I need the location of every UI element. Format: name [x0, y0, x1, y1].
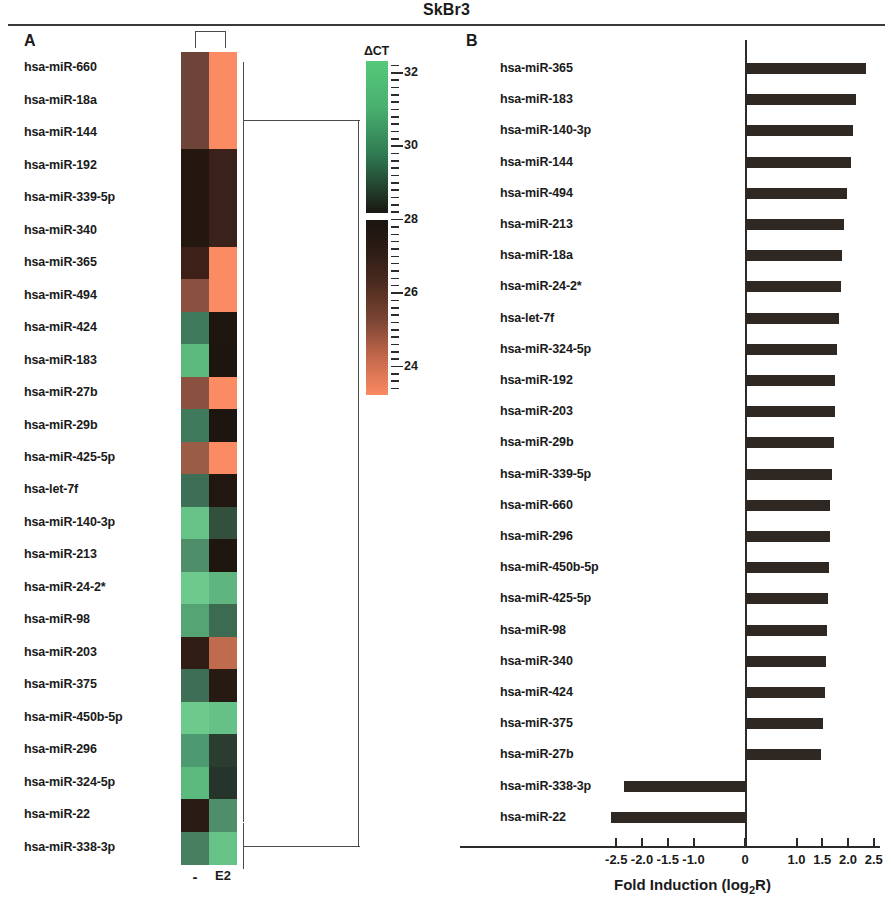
heatmap-row-label: hsa-miR-203: [24, 646, 174, 659]
heatmap-row-label: hsa-miR-98: [24, 613, 174, 626]
bar: [745, 63, 866, 74]
colorbar-tick: [391, 344, 399, 346]
colorbar-tick: [391, 241, 399, 243]
x-axis-tick: [693, 838, 695, 846]
colorbar-tick: [391, 292, 403, 294]
heatmap-cell: [209, 539, 237, 572]
x-axis-line: [460, 846, 880, 848]
colorbar-tick: [391, 270, 399, 272]
colorbar-tick: [391, 123, 399, 125]
colorbar-tick: [391, 204, 399, 206]
panel-a-row-labels: hsa-miR-660hsa-miR-18ahsa-miR-144hsa-miR…: [24, 52, 174, 864]
x-axis-tick: [667, 838, 669, 846]
heatmap-cell: [209, 474, 237, 507]
bar: [745, 437, 834, 448]
heatmap-row-label: hsa-miR-425-5p: [24, 451, 174, 464]
colorbar-tick-label: 26: [404, 285, 418, 299]
colorbar-tick: [391, 116, 399, 118]
x-axis-tick: [796, 838, 798, 846]
colorbar-tick: [391, 101, 399, 103]
heatmap-cell: [209, 149, 237, 182]
bar: [745, 469, 832, 480]
heatmap-cell: [209, 214, 237, 247]
heatmap-cell: [181, 279, 209, 312]
row-dendrogram: [237, 48, 362, 868]
heatmap-column-label-control: -: [181, 868, 209, 885]
heatmap-cell: [209, 312, 237, 345]
x-axis-tick-label: -2.5: [605, 852, 627, 867]
colorbar-tick: [391, 322, 399, 324]
bar: [745, 375, 835, 386]
heatmap-cell: [181, 117, 209, 150]
heatmap-cell: [209, 604, 237, 637]
colorbar-tick: [391, 131, 399, 133]
colorbar-tick-label: 30: [404, 138, 418, 152]
x-axis-tick-label: 0: [741, 852, 748, 867]
bar: [745, 250, 842, 261]
colorbar-tick: [391, 358, 399, 360]
heatmap-cell: [181, 442, 209, 475]
heatmap-cell: [181, 377, 209, 410]
heatmap-cell: [181, 409, 209, 442]
heatmap-cell: [181, 149, 209, 182]
heatmap-cell: [209, 52, 237, 85]
heatmap: [181, 52, 237, 864]
dendrogram-branch: [243, 120, 360, 121]
colorbar-tick: [391, 167, 399, 169]
x-axis-title: Fold Induction (log2R): [614, 876, 771, 896]
bar: [745, 219, 844, 230]
heatmap-cell: [181, 799, 209, 832]
column-dendrogram: [195, 31, 226, 48]
heatmap-cell: [181, 767, 209, 800]
heatmap-cell: [181, 52, 209, 85]
colorbar-tick: [391, 380, 399, 382]
bar: [745, 718, 823, 729]
heatmap-cell: [181, 832, 209, 865]
heatmap-row-label: hsa-miR-660: [24, 61, 174, 74]
colorbar-tick: [391, 388, 399, 390]
x-axis-tick: [615, 838, 617, 846]
heatmap-cell: [181, 507, 209, 540]
colorbar-group: ΔCT 3230282624: [364, 58, 428, 398]
colorbar-tick: [391, 373, 399, 375]
heatmap-row-label: hsa-miR-424: [24, 321, 174, 334]
heatmap-row-label: hsa-miR-144: [24, 126, 174, 139]
colorbar-gradient: [366, 61, 388, 395]
colorbar-tick: [391, 263, 399, 265]
colorbar-tick: [391, 182, 399, 184]
colorbar-tick: [391, 138, 399, 140]
colorbar-gap: [366, 213, 388, 220]
colorbar-tick: [391, 351, 399, 353]
heatmap-column-label-e2: E2: [209, 868, 237, 883]
heatmap-cell: [181, 312, 209, 345]
dendrogram-branch: [358, 120, 359, 847]
dendrogram-branch: [243, 62, 244, 822]
colorbar-tick: [391, 211, 399, 213]
bar: [745, 313, 839, 324]
x-axis-tick-label: 1.0: [787, 852, 805, 867]
heatmap-cell: [209, 572, 237, 605]
heatmap-row-label: hsa-let-7f: [24, 483, 174, 496]
bar: [745, 94, 856, 105]
heatmap-row-label: hsa-miR-192: [24, 159, 174, 172]
heatmap-row-label: hsa-miR-375: [24, 678, 174, 691]
heatmap-cell: [181, 182, 209, 215]
colorbar-tick: [391, 87, 399, 89]
bar: [624, 781, 745, 792]
bar-chart: -2.5-2.0-1.5-1.001.01.52.02.5Fold Induct…: [466, 40, 886, 865]
heatmap-row-label: hsa-miR-140-3p: [24, 516, 174, 529]
colorbar-tick-label: 28: [404, 212, 418, 226]
heatmap-row-label: hsa-miR-324-5p: [24, 776, 174, 789]
colorbar-tick: [391, 160, 399, 162]
colorbar-tick: [391, 248, 399, 250]
colorbar-tick-label: 32: [404, 65, 418, 79]
colorbar-tick: [391, 94, 399, 96]
panel-a-letter: A: [24, 32, 36, 50]
colorbar-tick: [391, 366, 403, 368]
heatmap-row-label: hsa-miR-18a: [24, 94, 174, 107]
x-axis-tick: [744, 838, 746, 846]
heatmap-cell: [209, 117, 237, 150]
heatmap-cell: [209, 669, 237, 702]
heatmap-row-label: hsa-miR-24-2*: [24, 581, 174, 594]
colorbar-title: ΔCT: [364, 44, 389, 58]
